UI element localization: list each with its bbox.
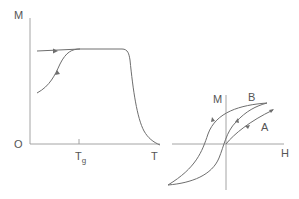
left-diagram: M O Tg T <box>14 9 160 165</box>
fc-arrow-icon <box>53 49 58 54</box>
right-diagram: M H B A <box>168 91 289 190</box>
left-y-label: M <box>14 9 23 21</box>
curve-b-label: B <box>248 91 255 103</box>
loop-down-arrow-icon <box>211 117 215 122</box>
curve-a-label: A <box>261 121 269 133</box>
right-x-label: H <box>281 147 289 159</box>
origin-label: O <box>14 138 23 150</box>
virgin-end-arrow-icon <box>269 109 274 113</box>
diagram-canvas: M O Tg T M H B A <box>0 0 299 199</box>
plateau-drop-curve <box>80 49 160 145</box>
tg-label: Tg <box>75 150 86 165</box>
right-y-label: M <box>213 93 222 105</box>
left-x-label: T <box>151 150 158 162</box>
zfc-curve <box>37 49 80 93</box>
